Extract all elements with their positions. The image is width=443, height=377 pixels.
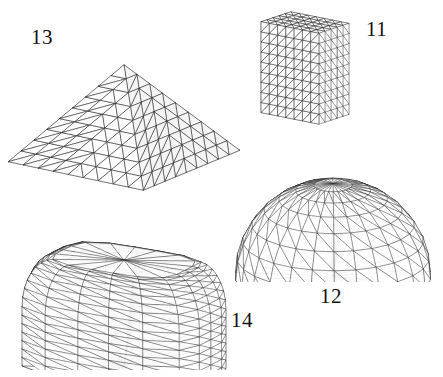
figure-label-12: 12: [320, 286, 342, 307]
figure-label-13: 13: [31, 27, 53, 48]
mesh-figure: 13 11 12 14: [0, 0, 443, 377]
mesh-hemisphere-12: [230, 136, 436, 282]
mesh-box-11: [248, 4, 362, 132]
mesh-rounded-block-14: [12, 216, 238, 370]
figure-label-14: 14: [231, 310, 253, 331]
figure-label-11: 11: [366, 19, 387, 40]
